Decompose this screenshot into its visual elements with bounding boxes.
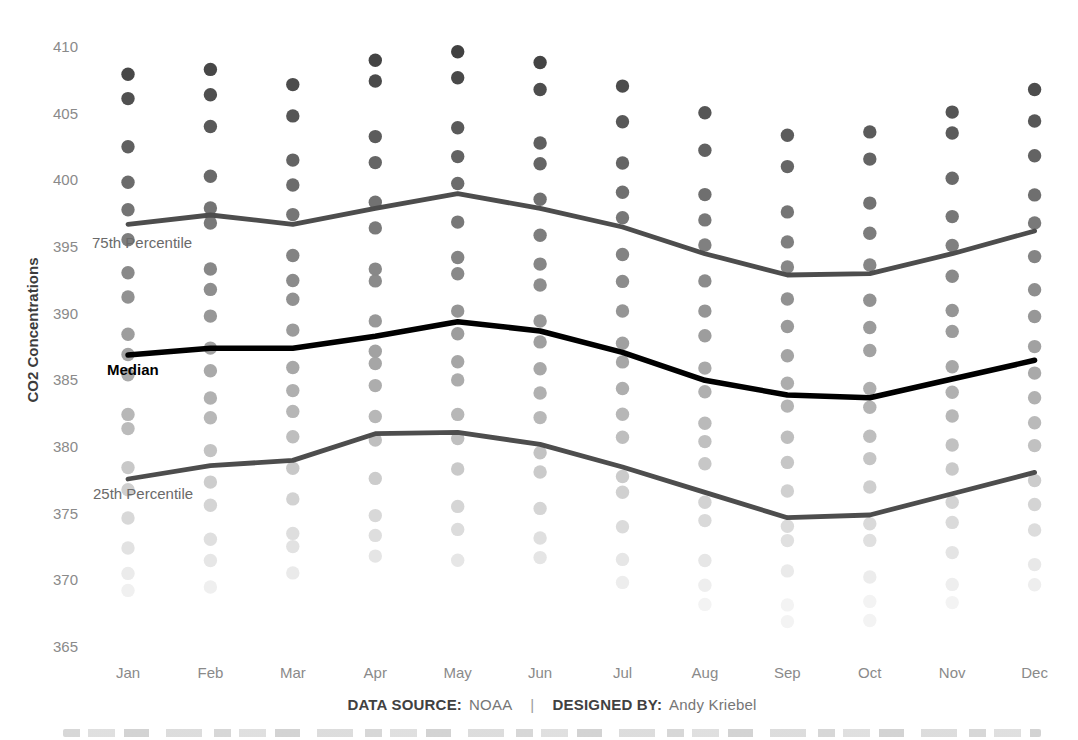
co2-dot: [863, 227, 876, 240]
co2-dot: [698, 598, 711, 611]
co2-dot: [286, 78, 299, 91]
co2-concentration-chart: 365370375380385390395400405410CO2 Concen…: [0, 0, 1078, 740]
co2-dot: [781, 431, 794, 444]
co2-dot: [451, 373, 464, 386]
co2-dot: [1028, 416, 1041, 429]
co2-dot: [781, 205, 794, 218]
designed-by-label: DESIGNED BY:: [552, 696, 662, 713]
median-line: [128, 322, 1035, 398]
co2-dot: [698, 213, 711, 226]
co2-dot: [204, 580, 217, 593]
co2-dot: [946, 409, 959, 422]
co2-dot: [533, 56, 546, 69]
co2-dot: [286, 109, 299, 122]
co2-dot: [369, 274, 382, 287]
co2-dot: [121, 176, 134, 189]
x-tick-label: Feb: [197, 664, 223, 681]
co2-dot: [863, 344, 876, 357]
co2-dot: [204, 499, 217, 512]
co2-dot: [698, 496, 711, 509]
co2-dot: [121, 68, 134, 81]
co2-dot: [863, 570, 876, 583]
co2-dot: [946, 578, 959, 591]
co2-dot: [781, 484, 794, 497]
co2-dot: [451, 500, 464, 513]
chart-canvas: 365370375380385390395400405410CO2 Concen…: [0, 0, 1078, 740]
percentile-75-label: 75th Percentile: [92, 234, 192, 251]
co2-dot: [533, 229, 546, 242]
x-tick-label: Jun: [528, 664, 552, 681]
co2-dot: [1028, 114, 1041, 127]
co2-dot: [616, 304, 629, 317]
co2-dot: [204, 216, 217, 229]
co2-dot: [369, 509, 382, 522]
co2-dot: [698, 361, 711, 374]
co2-dot: [781, 456, 794, 469]
co2-dot: [863, 196, 876, 209]
co2-dot: [616, 553, 629, 566]
co2-dot: [1028, 391, 1041, 404]
co2-dot: [1028, 439, 1041, 452]
co2-dot: [286, 323, 299, 336]
co2-dot: [286, 566, 299, 579]
co2-dot: [286, 384, 299, 397]
co2-dot: [616, 186, 629, 199]
co2-dot: [121, 422, 134, 435]
co2-dot: [286, 405, 299, 418]
x-tick-label: Dec: [1021, 664, 1048, 681]
co2-dot: [369, 357, 382, 370]
co2-dot: [781, 564, 794, 577]
co2-dot: [451, 71, 464, 84]
co2-dot: [121, 203, 134, 216]
x-tick-label: Jul: [613, 664, 632, 681]
co2-dot: [946, 386, 959, 399]
co2-dot: [781, 235, 794, 248]
co2-dot: [204, 475, 217, 488]
co2-dot: [781, 399, 794, 412]
co2-dot: [451, 121, 464, 134]
co2-dot: [533, 136, 546, 149]
co2-dot: [698, 417, 711, 430]
co2-dot: [121, 140, 134, 153]
co2-dot: [781, 615, 794, 628]
co2-dot: [698, 188, 711, 201]
footer-separator: |: [530, 696, 534, 713]
co2-dot: [369, 156, 382, 169]
co2-dot: [698, 329, 711, 342]
co2-dot: [533, 193, 546, 206]
co2-dot: [286, 249, 299, 262]
co2-dot: [204, 283, 217, 296]
co2-dot: [616, 79, 629, 92]
percentile-25-line: [128, 432, 1035, 517]
co2-dot: [1028, 558, 1041, 571]
co2-dot: [204, 554, 217, 567]
co2-dot: [369, 345, 382, 358]
co2-dot: [533, 83, 546, 96]
co2-dot: [451, 462, 464, 475]
co2-dot: [946, 596, 959, 609]
co2-dot: [781, 598, 794, 611]
co2-dot: [286, 208, 299, 221]
co2-dot: [369, 221, 382, 234]
x-tick-label: Mar: [280, 664, 306, 681]
co2-dot: [286, 178, 299, 191]
co2-dot: [946, 438, 959, 451]
co2-dot: [616, 486, 629, 499]
co2-dot: [946, 516, 959, 529]
co2-dot: [451, 150, 464, 163]
co2-dot: [369, 472, 382, 485]
co2-dot: [863, 321, 876, 334]
co2-dot: [369, 410, 382, 423]
co2-dot: [781, 534, 794, 547]
co2-dot: [121, 408, 134, 421]
co2-dot: [286, 430, 299, 443]
co2-dot: [204, 411, 217, 424]
co2-dot: [1028, 149, 1041, 162]
co2-dot: [946, 325, 959, 338]
co2-dot: [121, 567, 134, 580]
co2-dot: [451, 177, 464, 190]
co2-dot: [863, 517, 876, 530]
co2-dot: [533, 157, 546, 170]
co2-dot: [451, 327, 464, 340]
co2-dot: [451, 267, 464, 280]
